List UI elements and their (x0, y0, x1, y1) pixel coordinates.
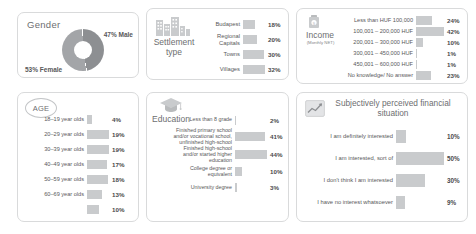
bar (235, 116, 236, 125)
bar-row-label: 60–69 year olds (25, 191, 87, 197)
bar-row-label: University degree (172, 185, 235, 191)
bar-track (243, 32, 265, 47)
bar-row-label: I am interested, sort of (303, 155, 396, 161)
bar-row-label: 30–39 year olds (25, 146, 87, 152)
bar-row: Finished primary school and/or vocationa… (172, 128, 287, 146)
bar (235, 150, 267, 159)
bar-row-label: I have no interest whatsoever (303, 199, 396, 205)
bar-row: 100,001 – 200,000 HUF42% (344, 26, 464, 37)
panel-financial-situation: Subjectively perceived financial situati… (296, 92, 468, 222)
bar-row-value: 13% (109, 191, 124, 198)
bar (416, 71, 431, 80)
bar (235, 167, 242, 176)
bar-row-label: 40–49 year olds (25, 161, 87, 167)
bar (243, 50, 264, 59)
bar (87, 115, 92, 124)
bar-row-value: 18% (265, 21, 280, 28)
bar-track (235, 116, 267, 125)
bar-row: 40–49 year olds17% (25, 157, 133, 172)
panel-education: Education Less than 8 grade2%Finished pr… (146, 92, 289, 222)
bar-row: 20–29 year olds19% (25, 127, 133, 142)
bar-row: 200,001 – 300,000 HUF10% (344, 37, 464, 48)
bar-row-value: 32% (265, 66, 280, 73)
bar (396, 152, 444, 165)
bar-row-value: 1% (444, 50, 456, 57)
bar-track (396, 147, 444, 169)
education-bar-chart: Less than 8 grade2%Finished primary scho… (172, 112, 287, 196)
settlement-caption: Settlement type (150, 38, 198, 58)
bar (396, 196, 405, 209)
gender-donut-chart (62, 29, 104, 71)
bar-row-label: 100,001 – 200,000 HUF (344, 28, 416, 34)
bar-track (87, 142, 109, 157)
bar-row-label: Finished primary school and/or vocationa… (172, 128, 235, 146)
bar-row-label: 18–19 year olds (25, 116, 87, 122)
income-bar-chart: Less than HUF 100,00024%100,001 – 200,00… (344, 15, 464, 81)
bar-track (416, 59, 444, 70)
bar-row-value: 50% (444, 155, 460, 162)
bar-track (396, 169, 444, 191)
bar-row: Regional Capitals20% (199, 32, 285, 47)
gender-title: Gender (27, 19, 61, 30)
bar-row: University degree3% (172, 180, 287, 196)
graduation-cap-icon (159, 97, 183, 113)
bar-row: I am definitely interested10% (303, 125, 463, 147)
bar-row: I have no interest whatsoever9% (303, 191, 463, 213)
bar-row-value: 3% (267, 184, 279, 191)
bar-row: 18–19 year olds4% (25, 112, 133, 127)
bar-row-label: 50–59 year olds (25, 176, 87, 182)
bar-track (416, 70, 444, 81)
bar-row-value: 20% (265, 36, 280, 43)
bar-track (235, 132, 267, 141)
bar-row-value: 19% (109, 131, 124, 138)
bar-track (416, 26, 444, 37)
bar-row: Budapest18% (199, 17, 285, 32)
infographic-canvas: Gender 47% Male 53% Female (0, 0, 476, 234)
age-bar-chart: 18–19 year olds4%20–29 year olds19%30–39… (25, 112, 133, 217)
bar-track (396, 125, 444, 147)
bar-track (243, 47, 265, 62)
bar-track (235, 150, 267, 159)
bar (243, 35, 257, 44)
bar-row-value: 23% (444, 72, 459, 79)
bar-row-value: 44% (267, 151, 282, 158)
bar-row-label: Less than HUF 100,000 (344, 17, 416, 23)
bar-row-label: No knowledge/ No answer (344, 72, 416, 78)
bar-row-value: 30% (444, 177, 460, 184)
bar-row: I am interested, sort of50% (303, 147, 463, 169)
bar-track (243, 17, 265, 32)
bar (243, 65, 265, 74)
income-subcaption: (Monthly NET) (297, 40, 344, 45)
bar-row: 50–59 year olds18% (25, 172, 133, 187)
bar (87, 190, 102, 199)
bar-row-value: 41% (267, 133, 282, 140)
bar (416, 38, 423, 47)
bar (416, 49, 417, 58)
panel-age: AGE 18–19 year olds4%20–29 year olds19%3… (17, 92, 139, 222)
bar-row: 300,001 – 450,000 HUF1% (344, 48, 464, 59)
bar-row-label: Villages (199, 66, 243, 72)
panel-income: $ Income (Monthly NET) Less than HUF 100… (296, 8, 468, 84)
gender-female-label: 53% Female (25, 66, 62, 73)
bar-row: College degree or equivalent10% (172, 164, 287, 180)
panel-gender: Gender 47% Male 53% Female (17, 12, 139, 78)
bar-row: Less than HUF 100,00024% (344, 15, 464, 26)
bar-row: No knowledge/ No answer23% (344, 70, 464, 81)
panel-settlement-type: Settlement type Budapest18%Regional Capi… (146, 8, 289, 80)
bar-row-label: 450,001 – 600,000 HUF (344, 61, 416, 67)
bar-row-value: 17% (109, 161, 124, 168)
bar (87, 160, 107, 169)
bar-row-label: College degree or equivalent (172, 166, 235, 178)
bar-row-value: 4% (109, 116, 121, 123)
bar-row-label: 20–29 year olds (25, 131, 87, 137)
bar-track (87, 187, 109, 202)
bar (396, 130, 406, 143)
bar-row-label: 300,001 – 450,000 HUF (344, 50, 416, 56)
financial-bar-chart: I am definitely interested10%I am intere… (303, 125, 463, 213)
bar-row: 10% (25, 202, 133, 217)
bar-row: Finished high-school and/or started high… (172, 146, 287, 164)
bar (416, 27, 444, 36)
bar-row: I don't think I am interested30% (303, 169, 463, 191)
income-caption: Income (299, 30, 341, 40)
bar-row-value: 18% (109, 176, 124, 183)
